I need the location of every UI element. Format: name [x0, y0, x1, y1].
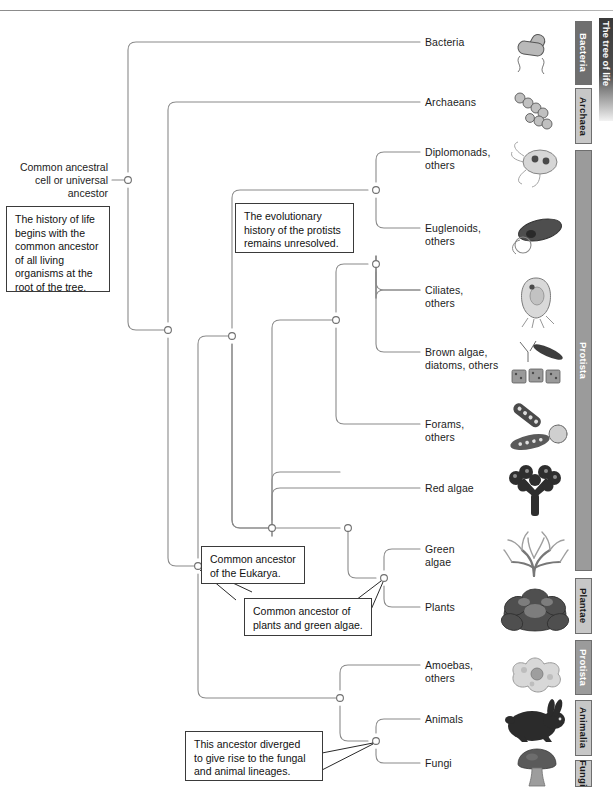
bar-animalia: Animalia	[575, 700, 592, 756]
leaf-label-plants: Plants	[425, 601, 505, 614]
note-protists: The evolutionary history of the protists…	[235, 203, 354, 253]
node-root	[125, 177, 132, 184]
node-amoeba-split	[337, 695, 344, 702]
branch-green-algae	[384, 549, 420, 570]
bar-bacteria: Bacteria	[575, 21, 592, 85]
node-opisthokonts	[373, 738, 380, 745]
branch-D-up	[336, 264, 368, 312]
branch-euglenoids	[376, 198, 420, 228]
node-d	[333, 317, 340, 324]
branch-bacteria	[128, 42, 420, 172]
branch-eukarya-up	[198, 336, 232, 558]
euglenoid-icon	[506, 212, 568, 262]
branch-guard4	[376, 256, 420, 298]
rabbit-icon	[504, 698, 570, 744]
bacterium-icon	[508, 28, 568, 76]
bar-plantae-label: Plantae	[578, 588, 589, 623]
node-b	[229, 333, 236, 340]
mushroom-icon	[514, 748, 560, 787]
note-plants-green-algae: Common ancestor of plants and green alga…	[244, 598, 372, 636]
bar-plantae: Plantae	[575, 578, 592, 634]
tree-of-life-edge-tab: The tree of life	[599, 18, 613, 121]
diatom-icon	[506, 338, 570, 394]
branch-eukarya-down	[198, 574, 340, 698]
leaf-label-bacteria: Bacteria	[425, 36, 503, 49]
node-excavates	[373, 187, 380, 194]
ciliate-icon	[510, 274, 564, 328]
branch-C-up	[272, 320, 336, 520]
figure-canvas: Common ancestral cell or universal ances…	[0, 0, 613, 787]
node-ciliate-brownalgae	[373, 261, 380, 268]
note-fungi-animals: This ancestor diverged to give rise to t…	[185, 731, 323, 781]
bar-animalia-label: Animalia	[578, 707, 589, 748]
branch-animals	[376, 719, 420, 733]
branch-to-viridiplantae	[348, 528, 376, 578]
bar-protista: Protista	[575, 150, 592, 571]
bar-archaea-label: Archaea	[578, 97, 589, 136]
amoeba-icon	[504, 650, 568, 696]
branch-fungi	[376, 749, 420, 763]
bar-protista-2-label: Protista	[578, 649, 589, 686]
node-plants-green-algae	[381, 575, 388, 582]
branch-B-down	[232, 344, 272, 528]
leaf-label-red-algae: Red algae	[425, 482, 505, 495]
green-algae-icon	[500, 524, 570, 580]
node-archaea-split	[165, 327, 172, 334]
node-red-green-split	[345, 525, 352, 532]
leaf-label-forams: Forams, others	[425, 418, 505, 443]
plant-icon	[500, 584, 570, 636]
branch-C-to-redalgae-stem	[272, 472, 340, 536]
branch-root-to-A	[128, 188, 168, 330]
red-algae-icon	[504, 464, 566, 518]
leaf-label-fungi: Fungi	[425, 757, 505, 770]
note-root: The history of life begins with the comm…	[6, 206, 110, 292]
foram-icon	[500, 400, 570, 456]
branch-amoebas	[340, 665, 420, 690]
branch-brown-algae	[376, 272, 420, 352]
branch-forams	[336, 328, 420, 424]
bar-archaea: Archaea	[575, 88, 592, 144]
root-label: Common ancestral cell or universal ances…	[4, 161, 108, 200]
branch-guard3	[376, 226, 384, 256]
branch-diplomonads	[376, 152, 420, 182]
leaf-label-brown-algae: Brown algae, diatoms, others	[425, 346, 515, 371]
branch-A-to-eukarya	[168, 338, 198, 566]
bar-bacteria-label: Bacteria	[578, 33, 589, 72]
node-c	[269, 525, 276, 532]
branch-plants	[384, 586, 420, 607]
bar-protista-label: Protista	[578, 342, 589, 379]
bar-protista-2: Protista	[575, 640, 592, 695]
archaean-chain-icon	[508, 88, 564, 134]
leaf-label-green-algae: Green algae	[425, 543, 505, 568]
bar-fungi-label: Fungi	[578, 760, 589, 787]
leaf-label-amoebas: Amoebas, others	[425, 659, 505, 684]
bar-fungi: Fungi	[575, 760, 592, 787]
leaf-label-ciliates: Ciliates, others	[425, 284, 505, 309]
leaf-label-euglenoids: Euglenoids, others	[425, 222, 505, 247]
note-eukarya: Common ancestor of the Eukarya.	[201, 546, 305, 584]
branch-ciliates	[376, 256, 420, 298]
branch-B-down-ext	[232, 344, 340, 528]
diplomonad-icon	[506, 140, 568, 190]
leaf-label-diplomonads: Diplomonads, others	[425, 146, 505, 171]
tree-of-life-label: The tree of life	[601, 21, 612, 86]
leaf-label-archaeans: Archaeans	[425, 96, 503, 109]
leaf-label-animals: Animals	[425, 713, 505, 726]
branch-F-to-opisthokonts	[340, 706, 368, 741]
